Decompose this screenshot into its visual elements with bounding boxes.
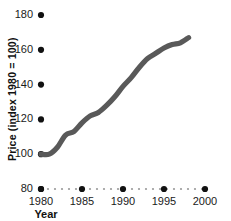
- baseline-dot: [145, 188, 147, 190]
- x-tick-dot: [161, 186, 167, 192]
- baseline-dot: [138, 188, 140, 190]
- baseline-dot: [180, 188, 182, 190]
- baseline-dot: [61, 188, 63, 190]
- y-tick-dot: [38, 186, 44, 192]
- x-tick-dot: [120, 186, 126, 192]
- y-axis-title: Price (index 1980 = 100): [6, 41, 18, 161]
- baseline-dot: [187, 188, 189, 190]
- baseline-dot: [54, 188, 56, 190]
- baseline-dot: [103, 188, 105, 190]
- baseline-dot: [47, 188, 49, 190]
- y-tick-dot: [38, 47, 44, 53]
- chart-plot-area: [0, 0, 231, 221]
- x-tick-label: 1980: [21, 196, 61, 207]
- x-tick-label: 2000: [185, 196, 225, 207]
- price-index-line-chart: 80100120140160180 19801985199019952000 P…: [0, 0, 231, 221]
- x-axis-tick-dots: [38, 186, 208, 192]
- baseline-dot: [110, 188, 112, 190]
- x-axis-title: Year: [26, 208, 66, 220]
- baseline-dot: [152, 188, 154, 190]
- x-tick-label: 1995: [144, 196, 184, 207]
- y-axis-tick-dots: [38, 12, 44, 192]
- price-index-line: [41, 38, 189, 155]
- baseline-dot: [89, 188, 91, 190]
- baseline-dot: [173, 188, 175, 190]
- baseline-dot: [159, 188, 161, 190]
- y-tick-dot: [38, 116, 44, 122]
- x-tick-dot: [79, 186, 85, 192]
- x-tick-dot: [202, 186, 208, 192]
- y-tick-dot: [38, 12, 44, 18]
- y-tick-label: 180: [3, 9, 33, 20]
- y-tick-label: 80: [3, 183, 33, 194]
- y-tick-dot: [38, 82, 44, 88]
- baseline-dot: [117, 188, 119, 190]
- baseline-dot: [131, 188, 133, 190]
- baseline-dot: [75, 188, 77, 190]
- x-tick-label: 1990: [103, 196, 143, 207]
- baseline-dot: [194, 188, 196, 190]
- baseline-dot: [68, 188, 70, 190]
- x-tick-label: 1985: [62, 196, 102, 207]
- baseline-dot: [96, 188, 98, 190]
